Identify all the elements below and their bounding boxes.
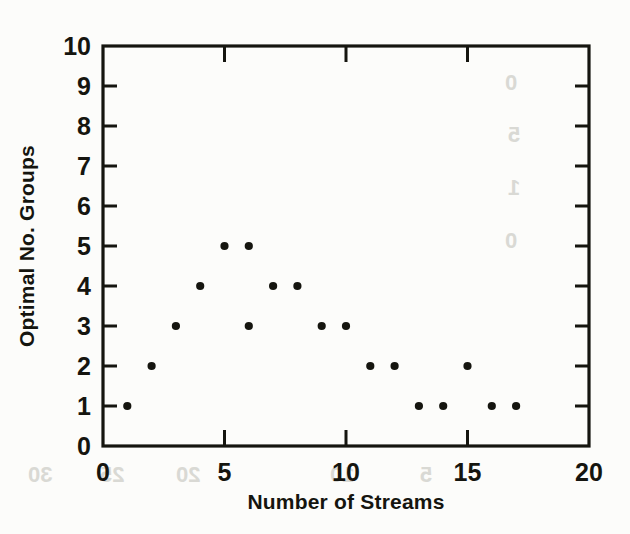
data-point bbox=[196, 282, 204, 290]
data-point bbox=[391, 362, 399, 370]
data-point bbox=[463, 362, 471, 370]
figure-root: 0 5 1 0 30 25 20 10 5 012345678910 05101… bbox=[0, 0, 630, 534]
data-point bbox=[269, 282, 277, 290]
data-point bbox=[245, 242, 253, 250]
x-axis-ticks-top bbox=[225, 46, 468, 62]
scatter-plot-svg: 012345678910 05101520 Number of Streams … bbox=[0, 0, 630, 534]
data-point bbox=[512, 402, 520, 410]
y-tick-label-5: 5 bbox=[77, 232, 91, 260]
data-point bbox=[245, 322, 253, 330]
x-tick-label-5: 5 bbox=[218, 458, 232, 486]
x-tick-label-15: 15 bbox=[454, 458, 482, 486]
data-point bbox=[488, 402, 496, 410]
x-tick-label-0: 0 bbox=[96, 458, 110, 486]
data-point bbox=[415, 402, 423, 410]
x-tick-label-10: 10 bbox=[332, 458, 360, 486]
x-axis-ticks-bottom bbox=[225, 430, 468, 446]
y-tick-label-8: 8 bbox=[77, 112, 91, 140]
x-tick-label-20: 20 bbox=[575, 458, 603, 486]
data-point-group bbox=[123, 242, 520, 410]
y-tick-label-3: 3 bbox=[77, 312, 91, 340]
data-point bbox=[439, 402, 447, 410]
x-axis-tick-labels: 05101520 bbox=[96, 458, 603, 486]
data-point bbox=[318, 322, 326, 330]
y-tick-label-0: 0 bbox=[77, 432, 91, 460]
y-tick-label-1: 1 bbox=[77, 392, 91, 420]
plot-frame bbox=[103, 46, 589, 446]
data-point bbox=[342, 322, 350, 330]
data-point bbox=[366, 362, 374, 370]
y-tick-label-7: 7 bbox=[77, 152, 91, 180]
y-tick-label-6: 6 bbox=[77, 192, 91, 220]
x-axis-title: Number of Streams bbox=[247, 490, 444, 513]
y-axis-title: Optimal No. Groups bbox=[15, 145, 38, 347]
y-tick-label-10: 10 bbox=[63, 32, 91, 60]
data-point bbox=[123, 402, 131, 410]
data-point bbox=[172, 322, 180, 330]
y-axis-tick-labels: 012345678910 bbox=[63, 32, 91, 460]
data-point bbox=[148, 362, 156, 370]
data-point bbox=[293, 282, 301, 290]
y-axis-ticks-right bbox=[575, 86, 589, 406]
y-tick-label-4: 4 bbox=[77, 272, 91, 300]
y-tick-label-9: 9 bbox=[77, 72, 91, 100]
y-axis-ticks-left bbox=[103, 86, 117, 406]
y-tick-label-2: 2 bbox=[77, 352, 91, 380]
data-point bbox=[220, 242, 228, 250]
